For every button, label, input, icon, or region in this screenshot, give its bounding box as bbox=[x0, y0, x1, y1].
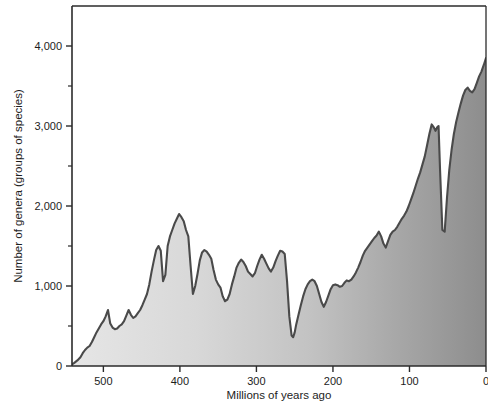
x-tick-label: 200 bbox=[324, 375, 342, 387]
x-tick-label: 400 bbox=[171, 375, 189, 387]
y-tick-label: 2,000 bbox=[34, 200, 62, 212]
biodiversity-chart: 01,0002,0003,0004,000 5004003002001000 N… bbox=[0, 0, 488, 404]
y-tick-label: 3,000 bbox=[34, 120, 62, 132]
y-tick-label: 4,000 bbox=[34, 40, 62, 52]
x-tick-label: 500 bbox=[94, 375, 112, 387]
x-tick-label: 100 bbox=[400, 375, 418, 387]
x-axis-title: Millions of years ago bbox=[227, 389, 332, 401]
y-tick-label: 1,000 bbox=[34, 280, 62, 292]
x-tick-label: 300 bbox=[247, 375, 265, 387]
x-tick-label: 0 bbox=[483, 375, 488, 387]
y-tick-label: 0 bbox=[56, 360, 62, 372]
y-axis-title: Number of genera (groups of species) bbox=[12, 89, 24, 283]
